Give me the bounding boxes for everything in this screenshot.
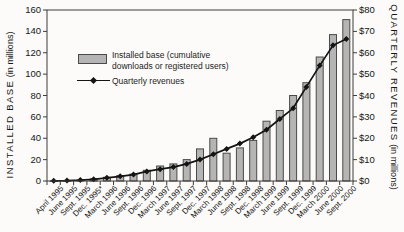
bar-installed-base [343,20,350,181]
left-axis-tick-label: 140 [14,26,41,36]
bar-installed-base [210,138,217,181]
right-axis-tick-label: $60 [359,48,391,58]
left-axis-tick-label: 40 [14,133,41,143]
left-axis-title-caps: INSTALLED BASE [4,80,15,179]
bar-installed-base [236,148,243,181]
left-axis-tick-label: 0 [14,176,41,186]
right-axis-tick-label: $10 [359,155,391,165]
legend-bar-swatch [78,54,107,64]
left-axis-tick-label: 160 [14,5,41,15]
legend-bar-label-line1: Installed base (cumulative [112,50,229,61]
right-axis-tick-label: $20 [359,133,391,143]
left-axis-title-sub: (in millions) [5,32,15,78]
right-axis-tick-label: $80 [359,5,391,15]
right-axis-tick-label: $30 [359,112,391,122]
right-axis-tick-label: $0 [359,176,391,186]
legend-bar-label-line2: downloads or registered users) [112,61,229,72]
chart-root: INSTALLED BASE (in millions) QUARTERLY R… [0,0,404,232]
bar-installed-base [250,140,257,181]
legend-bar-label: Installed base (cumulative downloads or … [112,50,229,71]
left-axis-tick-label: 60 [14,112,41,122]
bar-installed-base [303,83,310,181]
revenue-marker-diamond-icon [77,177,83,183]
left-axis-tick-label: 80 [14,91,41,101]
bar-installed-base [316,57,323,181]
right-axis-tick-label: $40 [359,91,391,101]
left-axis-title: INSTALLED BASE (in millions) [4,32,15,179]
bar-installed-base [330,35,337,181]
bar-installed-base [223,153,230,181]
legend-line-label: Quarterly revenues [112,76,184,87]
left-axis-tick-label: 20 [14,155,41,165]
right-axis-tick-label: $70 [359,26,391,36]
left-axis-tick-label: 100 [14,69,41,79]
bar-installed-base [197,149,204,181]
revenue-marker-diamond-icon [224,146,230,152]
right-axis-tick-label: $50 [359,69,391,79]
left-axis-tick-label: 120 [14,48,41,58]
revenue-marker-diamond-icon [237,141,243,147]
